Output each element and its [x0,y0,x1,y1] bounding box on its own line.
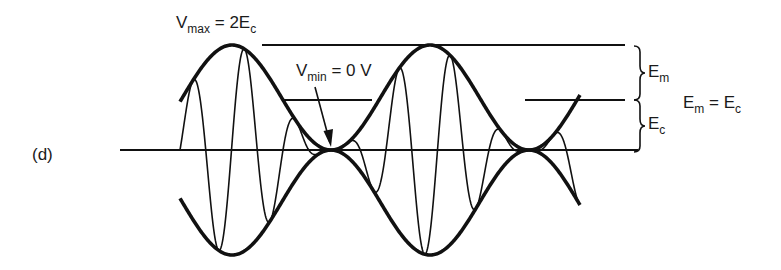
vmax-label: Vmax = 2Ec [176,14,256,31]
equality-sign: = [704,93,723,112]
braces [634,46,645,152]
ec-brace-icon [634,100,645,152]
ec-symbol: E [648,114,659,133]
vmin-label: Vmin = 0 V [296,62,372,79]
lower-envelope [180,150,580,255]
arrowhead-icon [324,129,334,147]
ec-brace-label: Ec [648,115,665,132]
em-symbol: E [648,62,659,81]
ec-subscript: c [659,123,665,137]
vmin-arrow [315,87,333,147]
equality-right: E [724,93,735,112]
em-subscript: m [659,71,669,85]
equality-right-subscript: c [735,102,741,116]
vmax-value: = 2E [210,13,250,32]
equality-left: E [683,93,694,112]
panel-label: (d) [32,146,53,163]
vmax-value-subscript: c [250,22,256,36]
vmin-subscript: min [307,70,326,84]
em-equals-ec-label: Em = Ec [683,94,741,111]
em-brace-label: Em [648,63,669,80]
equality-left-subscript: m [694,102,704,116]
vmin-value: = 0 V [327,61,372,80]
vmin-symbol: V [296,61,307,80]
vmax-subscript: max [187,22,210,36]
vmax-symbol: V [176,13,187,32]
em-brace-icon [634,46,645,100]
